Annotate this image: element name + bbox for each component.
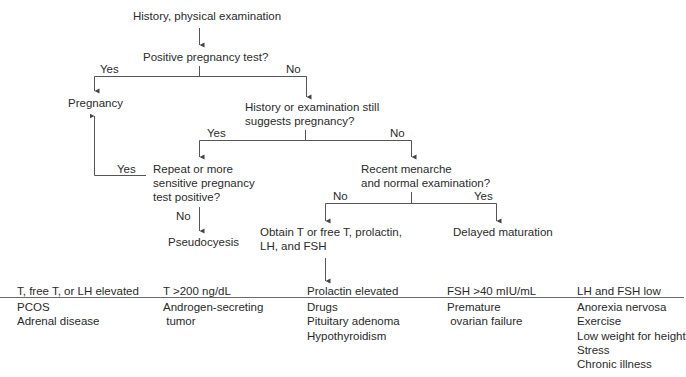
repeat-test-question: Repeat or more sensitive pregnancy test … <box>153 162 255 204</box>
still-suggests-pregnancy-question: History or examination still suggests pr… <box>245 100 379 128</box>
result-header-testosterone-high: T >200 ng/dL <box>163 284 231 298</box>
pregnancy-test-question: Positive pregnancy test? <box>143 50 268 64</box>
result-item: Stress <box>577 343 686 357</box>
q1-no-label: No <box>286 62 301 76</box>
pseudocyesis-node: Pseudocyesis <box>168 235 239 249</box>
result-item: Chronic illness <box>577 357 686 371</box>
pregnancy-node: Pregnancy <box>68 96 123 110</box>
q3-line-3: test positive? <box>153 190 255 204</box>
q3-no-label: No <box>176 209 191 223</box>
result-column-fsh-high: Premature ovarian failure <box>447 300 522 329</box>
menarche-question: Recent menarche and normal examination? <box>361 162 490 190</box>
q3-line-1: Repeat or more <box>153 162 255 176</box>
result-item: tumor <box>163 314 263 328</box>
result-item: Drugs <box>307 300 400 314</box>
result-item: Adrenal disease <box>17 314 99 328</box>
result-header-lh-fsh-low: LH and FSH low <box>577 284 661 298</box>
result-column-testosterone-high: Androgen-secreting tumor <box>163 300 263 329</box>
q2-line-2: suggests pregnancy? <box>245 114 379 128</box>
result-item: Androgen-secreting <box>163 300 263 314</box>
result-item: PCOS <box>17 300 99 314</box>
result-column-lh-fsh-low: Anorexia nervosa Exercise Low weight for… <box>577 300 686 371</box>
q3-line-2: sensitive pregnancy <box>153 176 255 190</box>
result-item: Pituitary adenoma <box>307 314 400 328</box>
obtain-line-1: Obtain T or free T, prolactin, <box>260 225 402 239</box>
q4-no-label: No <box>333 189 348 203</box>
result-column-prolactin: Drugs Pituitary adenoma Hypothyroidism <box>307 300 400 343</box>
result-header-androgen: T, free T, or LH elevated <box>17 284 139 298</box>
result-item: Anorexia nervosa <box>577 300 686 314</box>
result-column-androgen: PCOS Adrenal disease <box>17 300 99 329</box>
q1-yes-label: Yes <box>100 62 119 76</box>
result-item: Hypothyroidism <box>307 329 400 343</box>
result-item: Premature <box>447 300 522 314</box>
q2-yes-label: Yes <box>207 126 226 140</box>
result-item: Exercise <box>577 314 686 328</box>
result-item: Low weight for height <box>577 329 686 343</box>
q3-yes-label: Yes <box>117 162 136 176</box>
obtain-labs-node: Obtain T or free T, prolactin, LH, and F… <box>260 225 402 253</box>
q4-line-1: Recent menarche <box>361 162 490 176</box>
results-divider <box>0 297 684 298</box>
start-node: History, physical examination <box>133 9 281 23</box>
result-header-fsh-high: FSH >40 mIU/mL <box>447 284 536 298</box>
delayed-maturation-node: Delayed maturation <box>453 225 553 239</box>
result-item: ovarian failure <box>447 314 522 328</box>
obtain-line-2: LH, and FSH <box>260 239 402 253</box>
q4-line-2: and normal examination? <box>361 176 490 190</box>
q2-line-1: History or examination still <box>245 100 379 114</box>
result-header-prolactin: Prolactin elevated <box>307 284 398 298</box>
q4-yes-label: Yes <box>474 189 493 203</box>
q2-no-label: No <box>390 126 405 140</box>
